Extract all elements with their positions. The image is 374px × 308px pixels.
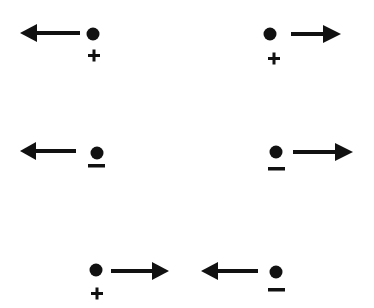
particle-dot <box>91 147 104 160</box>
particle-dot <box>90 264 103 277</box>
right-arrow-icon <box>293 143 353 161</box>
minus-sign-icon <box>268 167 285 171</box>
particle-dot <box>270 146 283 159</box>
right-arrow-icon <box>291 25 341 43</box>
left-arrow-icon <box>201 262 258 280</box>
plus-sign-icon <box>88 50 100 62</box>
charge-diagram <box>0 0 374 308</box>
row2-left-particle <box>20 142 105 168</box>
particle-dot <box>87 28 100 41</box>
particle-dot <box>270 266 283 279</box>
particle-dot <box>264 28 277 41</box>
row2-right-particle <box>268 143 353 171</box>
row1-left-particle <box>20 24 100 62</box>
plus-sign-icon <box>91 288 103 300</box>
minus-sign-icon <box>268 288 285 292</box>
row3-right-particle <box>201 262 285 292</box>
minus-sign-icon <box>88 164 105 168</box>
row3-left-particle <box>90 262 170 300</box>
row1-right-particle <box>264 25 342 65</box>
right-arrow-icon <box>111 262 169 280</box>
plus-sign-icon <box>268 53 280 65</box>
left-arrow-icon <box>20 24 80 42</box>
left-arrow-icon <box>20 142 76 160</box>
